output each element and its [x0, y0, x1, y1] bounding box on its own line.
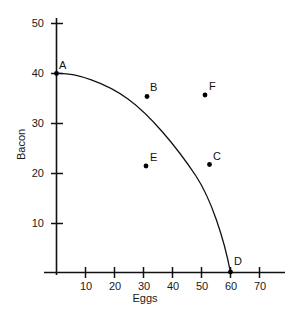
point-label-D: D [234, 256, 242, 267]
data-point-markers [54, 71, 233, 274]
y-tick-label-30: 30 [26, 118, 44, 129]
y-tick-label-10: 10 [26, 218, 44, 229]
x-tick-label-50: 50 [191, 281, 213, 292]
point-label-B: B [150, 82, 157, 93]
ppf-curve [57, 73, 231, 272]
x-tick-label-70: 70 [249, 281, 271, 292]
x-tick-label-10: 10 [75, 281, 97, 292]
y-tick-label-20: 20 [26, 168, 44, 179]
point-label-C: C [213, 151, 221, 162]
point-marker-B [145, 94, 150, 99]
ppf-chart: 50 40 30 20 10 10 20 30 40 50 60 70 A B … [0, 0, 298, 310]
point-marker-D [228, 270, 233, 275]
x-tick-label-20: 20 [104, 281, 126, 292]
point-label-E: E [150, 152, 157, 163]
y-tick-label-50: 50 [26, 18, 44, 29]
point-marker-C [207, 162, 212, 167]
y-tick-label-40: 40 [26, 68, 44, 79]
point-label-A: A [59, 60, 66, 71]
point-label-F: F [209, 81, 216, 92]
point-marker-A [54, 71, 59, 76]
x-axis-title: Eggs [132, 293, 157, 304]
x-tick-label-30: 30 [133, 281, 155, 292]
x-tick-label-40: 40 [162, 281, 184, 292]
point-marker-E [144, 164, 149, 169]
point-marker-F [203, 93, 208, 98]
x-tick-label-60: 60 [220, 281, 242, 292]
y-axis-title: Bacon [16, 129, 27, 160]
chart-plot-area [0, 0, 298, 310]
